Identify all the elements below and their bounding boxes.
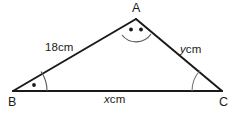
angle-dot-a-1-icon <box>129 28 133 32</box>
angle-arc-a-icon <box>122 34 151 42</box>
side-bc-unit: cm <box>110 93 126 105</box>
angle-arc-c-icon <box>192 71 200 92</box>
side-ac-unit: cm <box>186 43 202 55</box>
side-ab-unit: cm <box>58 41 74 53</box>
vertex-label-b: B <box>8 96 17 109</box>
angle-dot-a-2-icon <box>139 28 143 32</box>
angle-mark-c <box>192 71 200 92</box>
side-label-bc: xcm <box>104 94 125 106</box>
vertex-label-c: C <box>219 96 228 109</box>
side-label-ac: ycm <box>180 44 201 56</box>
side-label-ab: 18cm <box>45 42 74 54</box>
side-ab-number: 18 <box>45 41 58 53</box>
angle-dot-b-1-icon <box>32 83 36 87</box>
vertex-label-a: A <box>132 2 141 15</box>
side-ac-line <box>136 19 222 91</box>
triangle-figure: A B C 18cm ycm xcm <box>0 0 234 114</box>
side-ab-line <box>13 19 136 91</box>
angle-mark-a <box>122 28 151 42</box>
